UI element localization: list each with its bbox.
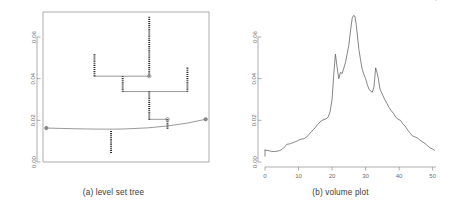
figure-container: 0.000.020.040.06 (a) level set tree 0102…: [0, 0, 454, 218]
x-tick-label-4: 40: [396, 172, 403, 179]
y-tick-label-1: 0.02: [30, 114, 37, 126]
x-tick-label-3: 30: [362, 172, 369, 179]
volume-plot-chart: 010203040500.000.020.040.06: [227, 0, 454, 185]
x-tick-label-0: 0: [263, 172, 267, 179]
y-tick-label-0: 0.00: [251, 155, 258, 167]
y-tick-label-3: 0.06: [30, 30, 37, 42]
x-tick-label-2: 20: [329, 172, 336, 179]
caption-volume-plot: (b) volume plot: [227, 188, 454, 197]
root-line: [46, 119, 205, 129]
x-tick-label-1: 10: [295, 172, 302, 179]
root-end-node-0: [45, 126, 48, 129]
level-set-tree-plot: 0.000.020.040.06: [0, 0, 227, 185]
root-end-node-1: [204, 118, 207, 121]
panel-level-set-tree: 0.000.020.040.06 (a) level set tree: [0, 0, 227, 218]
caption-level-set-tree: (a) level set tree: [0, 188, 227, 197]
y-tick-label-0: 0.00: [30, 155, 37, 167]
y-tick-label-3: 0.06: [251, 30, 258, 42]
panel-volume-plot: 010203040500.000.020.040.06 (b) volume p…: [227, 0, 454, 218]
x-tick-label-5: 50: [429, 172, 436, 179]
plot-frame: [43, 12, 209, 162]
y-tick-label-2: 0.04: [30, 72, 37, 84]
y-tick-label-1: 0.02: [251, 114, 258, 126]
volume-curve: [265, 16, 435, 152]
y-tick-label-2: 0.04: [251, 72, 258, 84]
